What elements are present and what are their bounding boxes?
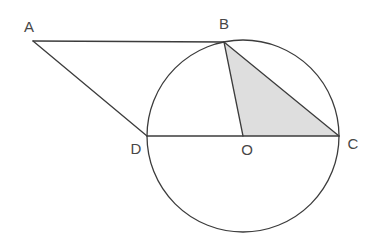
point-label-A: A [24, 18, 34, 35]
point-label-O: O [241, 141, 253, 158]
point-label-D: D [131, 140, 142, 157]
point-label-C: C [348, 135, 359, 152]
point-label-B: B [219, 15, 229, 32]
segment-AB [33, 41, 224, 42]
segment-AD [33, 41, 147, 136]
geometry-canvas: ABCDO [0, 0, 373, 241]
geometry-figure: ABCDO [0, 0, 373, 241]
